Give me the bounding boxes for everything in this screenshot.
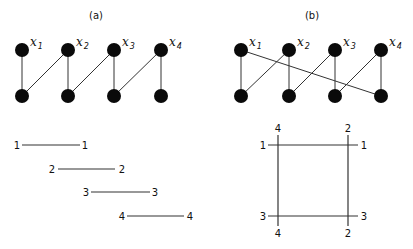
edge-x4-to-bottom-3 — [335, 50, 381, 96]
panel-a-edges — [22, 50, 161, 96]
bottom-node-4 — [154, 89, 168, 103]
top-node-1 — [15, 43, 29, 57]
interval-right-label-1: 1 — [82, 140, 88, 151]
square-right-bottom-label: 2 — [345, 228, 351, 239]
panel-a-nodes: x1x2x3x4 — [15, 35, 182, 103]
edge-x3-to-bottom-2 — [68, 50, 114, 96]
node-label-x3: x3 — [343, 35, 356, 51]
interval-right-label-2: 2 — [119, 164, 125, 175]
top-node-4 — [374, 43, 388, 57]
panel-b-edges — [241, 50, 381, 96]
square-bottom-right-label: 3 — [361, 211, 367, 222]
square-top-right-label: 1 — [361, 140, 367, 151]
interval-left-label-1: 1 — [14, 140, 20, 151]
edge-x4-to-bottom-3 — [114, 50, 161, 96]
bottom-node-2 — [282, 89, 296, 103]
bottom-node-1 — [234, 89, 248, 103]
square-left-bottom-label: 4 — [275, 228, 281, 239]
node-label-x2: x2 — [297, 35, 310, 51]
bottom-node-3 — [328, 89, 342, 103]
top-node-1 — [234, 43, 248, 57]
square-left-top-label: 4 — [275, 123, 281, 134]
interval-left-label-3: 3 — [83, 187, 89, 198]
top-node-3 — [107, 43, 121, 57]
square-diagram: 11334422 — [260, 123, 367, 239]
interval-left-label-2: 2 — [49, 164, 55, 175]
node-label-x1: x1 — [30, 35, 43, 51]
interval-segments: 11223344 — [14, 140, 193, 222]
edge-x3-to-bottom-2 — [289, 50, 335, 96]
interval-left-label-4: 4 — [119, 211, 125, 222]
node-label-x4: x4 — [389, 35, 402, 51]
top-node-2 — [282, 43, 296, 57]
node-label-x4: x4 — [169, 35, 182, 51]
panel-b: (b) x1x2x3x4 11334422 — [234, 10, 402, 239]
interval-right-label-3: 3 — [152, 187, 158, 198]
panel-b-title: (b) — [305, 10, 319, 21]
panel-b-nodes: x1x2x3x4 — [234, 35, 402, 103]
diagram-canvas: (a) x1x2x3x4 11223344 (b) x1x2x3x4 11334… — [0, 0, 413, 249]
bottom-node-4 — [374, 89, 388, 103]
top-node-4 — [154, 43, 168, 57]
node-label-x2: x2 — [76, 35, 89, 51]
top-node-3 — [328, 43, 342, 57]
square-right-top-label: 2 — [345, 123, 351, 134]
bottom-node-3 — [107, 89, 121, 103]
interval-right-label-4: 4 — [187, 211, 193, 222]
top-node-2 — [61, 43, 75, 57]
edge-x1-to-bottom-4 — [241, 50, 381, 96]
panel-a-title: (a) — [89, 10, 103, 21]
edge-x2-to-bottom-1 — [22, 50, 68, 96]
panel-a: (a) x1x2x3x4 11223344 — [14, 10, 193, 222]
edge-x2-to-bottom-1 — [241, 50, 289, 96]
bottom-node-1 — [15, 89, 29, 103]
bottom-node-2 — [61, 89, 75, 103]
node-label-x3: x3 — [122, 35, 135, 51]
square-top-left-label: 1 — [260, 140, 266, 151]
node-label-x1: x1 — [249, 35, 262, 51]
square-bottom-left-label: 3 — [260, 211, 266, 222]
